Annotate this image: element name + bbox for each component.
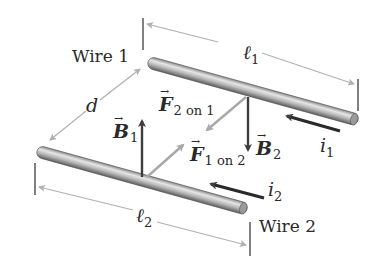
current-2-label: i2 bbox=[268, 180, 282, 203]
current-2-subscript: 2 bbox=[274, 189, 282, 204]
wire-2-label: Wire 2 bbox=[259, 218, 316, 235]
f2on1-subscript: 2 on 1 bbox=[174, 103, 215, 118]
separation-label: d bbox=[86, 96, 98, 115]
f1on2-force-arrow bbox=[147, 145, 183, 177]
b2-symbol: B bbox=[256, 139, 272, 158]
wire-1-label: Wire 1 bbox=[72, 48, 129, 65]
length-2-subscript: 2 bbox=[144, 215, 152, 230]
current-1-label: i1 bbox=[320, 136, 334, 159]
f2on1-symbol: F bbox=[159, 95, 173, 114]
b2-subscript: 2 bbox=[273, 147, 281, 162]
b2-label: B2 bbox=[256, 139, 281, 161]
b1-subscript: 1 bbox=[130, 130, 138, 145]
b1-symbol: B bbox=[113, 122, 129, 141]
length-1-symbol: ℓ bbox=[243, 41, 251, 63]
length-1-subscript: 1 bbox=[251, 52, 259, 67]
diagram-canvas: Wire 1 Wire 2 ℓ1 ℓ2 d B1 B2 F2 on 1 F1 o… bbox=[0, 0, 392, 277]
f1on2-symbol: F bbox=[190, 145, 204, 164]
f1on2-subscript: 1 on 2 bbox=[205, 153, 246, 168]
length-2-symbol: ℓ bbox=[136, 204, 144, 226]
current-1-subscript: 1 bbox=[326, 145, 334, 160]
length-1-label: ℓ1 bbox=[243, 43, 259, 66]
f2on1-label: F2 on 1 bbox=[159, 95, 215, 117]
length-2-label: ℓ2 bbox=[136, 206, 152, 229]
f1on2-label: F1 on 2 bbox=[190, 145, 246, 167]
b1-label: B1 bbox=[113, 122, 138, 144]
